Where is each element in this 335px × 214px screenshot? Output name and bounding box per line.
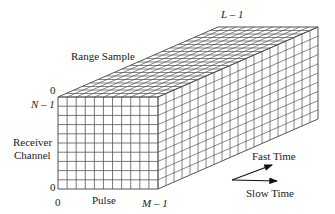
m-minus-1-label: M – 1 [142, 197, 168, 209]
channel-zero-label: 0 [50, 181, 56, 193]
pulse-zero-label: 0 [55, 196, 61, 208]
n-minus-1-label: N – 1 [31, 98, 55, 110]
l-minus-1-label: L – 1 [221, 8, 243, 20]
radar-data-cube-diagram: Range Sample L – 1 0 N – 1 Receiver Chan… [0, 0, 335, 214]
slow-time-label: Slow Time [246, 187, 294, 199]
slow-time-arrow [232, 180, 277, 181]
pulse-label: Pulse [92, 194, 116, 206]
channel-label: Channel [14, 149, 51, 161]
range-zero-label: 0 [50, 84, 56, 96]
fast-time-label: Fast Time [252, 150, 296, 162]
fast-time-arrow [232, 165, 272, 180]
range-sample-label: Range Sample [71, 50, 135, 62]
receiver-label: Receiver [13, 136, 52, 148]
